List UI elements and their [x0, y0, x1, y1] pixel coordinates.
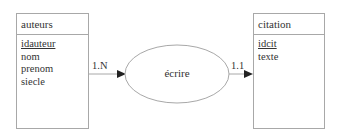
- attribute: prenom: [21, 63, 88, 76]
- entity-citation[interactable]: citation idcit texte: [253, 13, 325, 129]
- relationship-label[interactable]: écrire: [154, 67, 200, 79]
- arrow-head-right-icon: [244, 70, 253, 78]
- entity-attributes: idcit texte: [254, 35, 324, 63]
- cardinality-right: 1.1: [231, 60, 244, 71]
- attribute: nom: [21, 51, 88, 64]
- attribute: siecle: [21, 76, 88, 89]
- entity-auteurs[interactable]: auteurs idauteur nom prenom siecle: [16, 13, 89, 129]
- entity-attributes: idauteur nom prenom siecle: [17, 35, 88, 88]
- cardinality-left: 1.N: [92, 60, 107, 71]
- entity-title: auteurs: [17, 14, 88, 35]
- attribute: texte: [258, 51, 324, 64]
- primary-key: idauteur: [21, 38, 88, 51]
- entity-title: citation: [254, 14, 324, 35]
- primary-key: idcit: [258, 38, 324, 51]
